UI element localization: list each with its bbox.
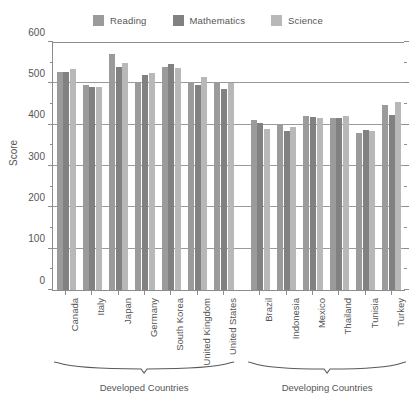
bar[interactable] [257, 123, 263, 290]
bar[interactable] [70, 69, 76, 290]
bar[interactable] [363, 130, 369, 290]
bar[interactable] [382, 105, 388, 290]
bar-group [211, 43, 237, 290]
x-axis-label: Brazil [263, 298, 274, 322]
y-tick-600 [48, 41, 53, 42]
bar-group [106, 43, 132, 290]
legend-label-reading: Reading [110, 15, 146, 26]
x-axis-label: Germany [148, 298, 159, 337]
bar[interactable] [251, 120, 257, 290]
bar-group [247, 43, 273, 290]
x-axis-label: Mexico [316, 298, 327, 328]
bar[interactable] [89, 87, 95, 290]
bar-group [273, 43, 299, 290]
legend-entry-mathematics[interactable]: Mathematics [173, 15, 246, 26]
bar[interactable] [149, 73, 155, 290]
x-axis-label: Japan [122, 298, 133, 324]
x-tick [118, 291, 119, 295]
legend-label-science: Science [288, 15, 323, 26]
bar[interactable] [389, 115, 395, 290]
bar-group [379, 43, 405, 290]
legend-swatch-icon-science [271, 15, 282, 26]
bar[interactable] [109, 54, 115, 290]
bar[interactable] [336, 118, 342, 290]
y-axis-label-300: 300 [28, 150, 45, 161]
bar-group [300, 43, 326, 290]
bar[interactable] [277, 124, 283, 290]
x-tick [223, 291, 224, 295]
bar[interactable] [290, 127, 296, 290]
bar[interactable] [369, 131, 375, 290]
x-tick [170, 291, 171, 295]
bar[interactable] [122, 63, 128, 290]
bar[interactable] [96, 87, 102, 290]
y-axis-label-600: 600 [28, 26, 45, 37]
x-tick [286, 291, 287, 295]
plot-area: 0100200300400500600 [52, 42, 404, 290]
legend-label-mathematics: Mathematics [190, 15, 246, 26]
y-tick-right-600 [404, 41, 409, 42]
x-axis-label: South Korea [174, 298, 185, 351]
x-tick [365, 291, 366, 295]
chart-legend: Reading Mathematics Science [0, 12, 416, 28]
bar[interactable] [135, 83, 141, 290]
x-tick [312, 291, 313, 295]
y-axis-label-400: 400 [28, 109, 45, 120]
bar[interactable] [188, 83, 194, 290]
bar[interactable] [63, 72, 69, 290]
x-tick [65, 291, 66, 295]
bar[interactable] [221, 89, 227, 290]
x-axis-label: Thailand [342, 298, 353, 334]
y-axis-label-100: 100 [28, 233, 45, 244]
bar[interactable] [310, 117, 316, 290]
category-group-annotations: Developed Countries Developing Countries [0, 360, 416, 406]
bar[interactable] [356, 133, 362, 290]
bar[interactable] [168, 64, 174, 290]
bar[interactable] [175, 68, 181, 290]
x-tick [391, 291, 392, 295]
x-tick [197, 291, 198, 295]
x-axis-label: United Kingdom [201, 298, 212, 366]
x-tick [91, 291, 92, 295]
y-axis-title: Score [8, 140, 19, 166]
x-axis-label: Indonesia [290, 298, 301, 339]
group-label-developing: Developing Countries [248, 382, 406, 393]
bar[interactable] [162, 67, 168, 290]
group-label-developed: Developed Countries [54, 382, 234, 393]
bar[interactable] [116, 67, 122, 290]
y-axis-label-200: 200 [28, 191, 45, 202]
y-axis-label-500: 500 [28, 67, 45, 78]
bar[interactable] [303, 116, 309, 290]
legend-swatch-icon-reading [93, 15, 104, 26]
bar[interactable] [214, 83, 220, 290]
bar-group [53, 43, 79, 290]
bar[interactable] [142, 75, 148, 290]
bar-group [326, 43, 352, 290]
x-axis-labels: CanadaItalyJapanGermanySouth KoreaUnited… [52, 291, 404, 355]
bar[interactable] [343, 116, 349, 290]
x-axis-label: Tunisia [369, 298, 380, 328]
bar[interactable] [83, 85, 89, 290]
bar[interactable] [228, 83, 234, 290]
bar-group [132, 43, 158, 290]
x-axis-label: Turkey [395, 298, 406, 327]
bar[interactable] [395, 102, 401, 290]
bar[interactable] [330, 118, 336, 290]
y-axis-label-0: 0 [39, 274, 45, 285]
x-tick [338, 291, 339, 295]
bar[interactable] [201, 77, 207, 290]
bar-group [185, 43, 211, 290]
pisa-score-bar-chart: Reading Mathematics Science Score 010020… [0, 0, 416, 410]
bar[interactable] [57, 72, 63, 290]
legend-swatch-icon-mathematics [173, 15, 184, 26]
legend-entry-science[interactable]: Science [271, 15, 323, 26]
bar-group [352, 43, 378, 290]
bar-series-layer [53, 43, 404, 290]
x-axis-label: Canada [69, 298, 80, 331]
bar[interactable] [284, 131, 290, 290]
bar[interactable] [317, 118, 323, 290]
legend-entry-reading[interactable]: Reading [93, 15, 146, 26]
bar[interactable] [195, 85, 201, 290]
bar[interactable] [264, 129, 270, 290]
x-axis-label: United States [227, 298, 238, 355]
